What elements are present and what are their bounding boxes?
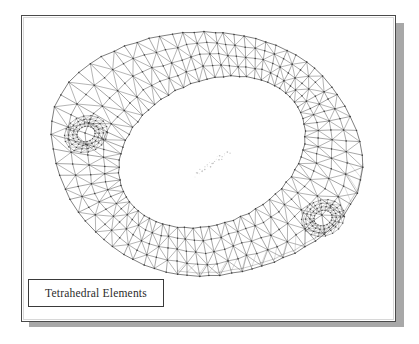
tetrahedral-mesh-drawing xyxy=(21,15,396,322)
scan-speckle-icon xyxy=(195,151,231,177)
figure-root: Tetrahedral Elements xyxy=(0,0,419,344)
caption-label: Tetrahedral Elements xyxy=(45,287,147,299)
caption-box: Tetrahedral Elements xyxy=(28,279,164,307)
